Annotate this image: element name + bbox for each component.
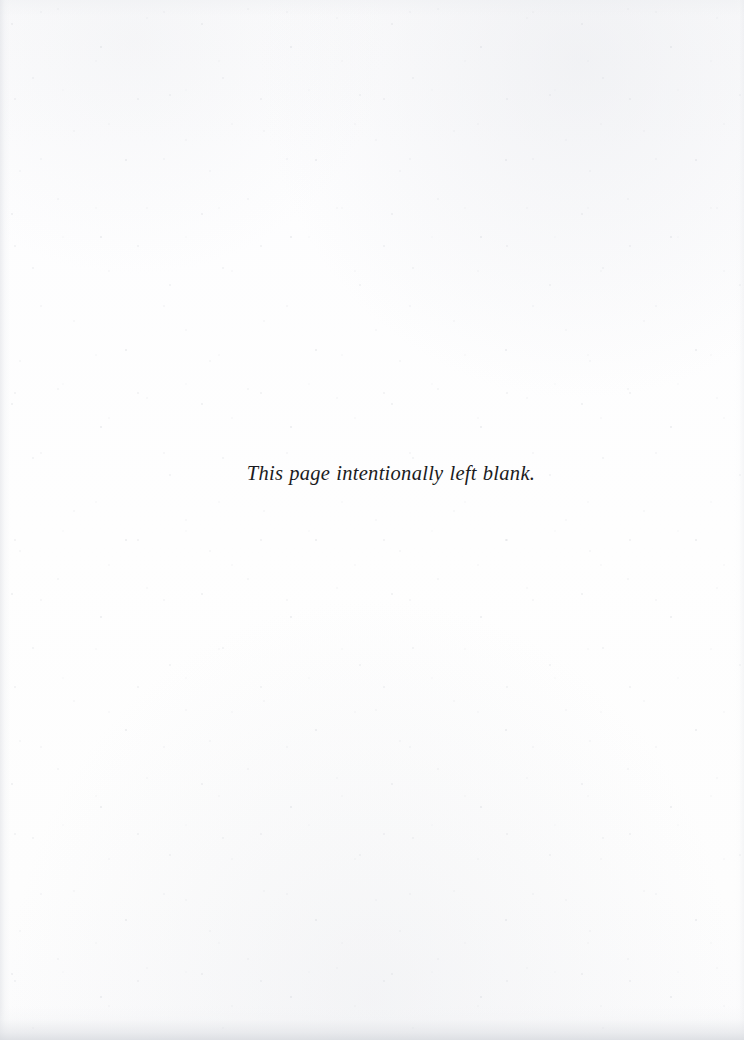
blank-page-notice: This page intentionally left blank. (0, 463, 744, 484)
blank-page-notice-text: This page intentionally left blank. (247, 463, 535, 484)
page-left-edge-shadow (0, 0, 14, 1040)
page-bottom-edge-shadow (0, 1006, 744, 1040)
page-top-edge-shadow (0, 0, 744, 16)
scan-speckle-texture (0, 0, 744, 1040)
scan-speckle-texture-secondary (0, 0, 744, 1040)
page-right-edge-shadow (734, 0, 744, 1040)
paper-background (0, 0, 744, 1040)
scanned-page: This page intentionally left blank. (0, 0, 744, 1040)
